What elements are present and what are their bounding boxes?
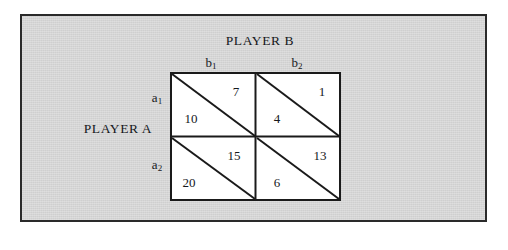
cell-a2b2-lower-left-value: 6 (264, 175, 290, 191)
cell-a1b2-lower-left-value: 4 (264, 111, 290, 127)
player-a-title: PLAYER A (78, 121, 158, 137)
cell-a2b1-upper-right-value: 15 (221, 148, 247, 164)
column-header-b2-subscript: 2 (298, 61, 303, 71)
column-header-b2: b2 (277, 55, 317, 71)
payoff-matrix: 7 10 1 4 15 20 13 6 (170, 72, 341, 201)
column-header-b1: b1 (191, 55, 231, 71)
row-header-a2: a2 (147, 157, 167, 173)
column-header-b1-subscript: 1 (212, 61, 217, 71)
cell-a1b1-upper-right-value: 7 (223, 84, 249, 100)
cell-a1b2-upper-right-value: 1 (309, 84, 335, 100)
player-b-title: PLAYER B (6, 33, 508, 49)
row-header-a2-subscript: 2 (158, 163, 163, 173)
cell-a2b1-lower-left-value: 20 (176, 175, 202, 191)
cell-a2b2-upper-right-value: 13 (307, 148, 333, 164)
cell-a1b1-lower-left-value: 10 (178, 111, 204, 127)
row-header-a1: a1 (147, 90, 167, 106)
row-header-a1-subscript: 1 (158, 96, 163, 106)
